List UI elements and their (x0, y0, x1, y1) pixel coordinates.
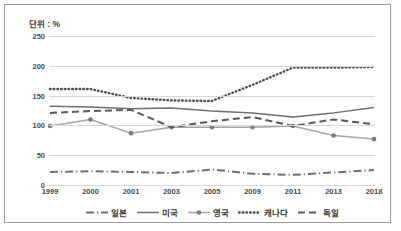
x-axis-ticks: 199920002001200320052009201120132018 (49, 187, 375, 201)
chart-screenshot: 단위 : % 050100150200250 19992000200120032… (0, 0, 401, 231)
chart-frame: 단위 : % 050100150200250 19992000200120032… (4, 4, 391, 223)
y-axis-tick-label: 50 (37, 151, 45, 160)
chart-legend: 일본미국영국캐나다독일 (49, 203, 375, 221)
legend-label: 미국 (162, 206, 178, 218)
series-marker-영국 (129, 131, 134, 136)
gridline (49, 36, 375, 37)
legend-swatch-icon (297, 208, 321, 217)
legend-swatch-icon (238, 208, 262, 217)
legend-item-일본[interactable]: 일본 (85, 206, 127, 218)
series-marker-영국 (372, 137, 377, 142)
x-axis-tick-label: 2009 (244, 187, 261, 196)
gridline (49, 125, 375, 126)
legend-label: 캐나다 (264, 206, 288, 218)
legend-label: 독일 (323, 206, 339, 218)
legend-item-독일[interactable]: 독일 (297, 206, 339, 218)
y-axis-tick-label: 250 (32, 32, 45, 41)
legend-swatch-icon (187, 208, 211, 217)
gridline (49, 66, 375, 67)
legend-label: 일본 (111, 206, 127, 218)
gridline (49, 185, 375, 186)
gridline (49, 155, 375, 156)
legend-item-미국[interactable]: 미국 (136, 206, 178, 218)
y-axis-tick-label: 200 (32, 61, 45, 70)
chart-title: 단위 : % (29, 17, 60, 29)
x-axis-tick-label: 2000 (82, 187, 99, 196)
x-axis-tick-label: 2013 (325, 187, 342, 196)
series-layer (49, 36, 375, 185)
legend-label: 영국 (213, 206, 229, 218)
series-marker-영국 (88, 117, 93, 122)
x-axis-tick-label: 2003 (163, 187, 180, 196)
legend-item-캐나다[interactable]: 캐나다 (238, 206, 288, 218)
x-axis-tick-label: 2005 (204, 187, 221, 196)
x-axis-tick-label: 1999 (42, 187, 59, 196)
x-axis-tick-label: 2001 (123, 187, 140, 196)
x-axis-tick-label: 2018 (366, 187, 383, 196)
legend-swatch-icon (136, 208, 160, 217)
series-line-일본 (50, 170, 374, 175)
gridline (49, 96, 375, 97)
plot-area (49, 36, 375, 185)
y-axis-tick-label: 100 (32, 121, 45, 130)
legend-swatch-icon (85, 208, 109, 217)
series-marker-영국 (331, 133, 336, 138)
legend-item-영국[interactable]: 영국 (187, 206, 229, 218)
y-axis-ticks: 050100150200250 (19, 36, 45, 185)
y-axis-tick-label: 150 (32, 91, 45, 100)
x-axis-tick-label: 2011 (285, 187, 301, 196)
